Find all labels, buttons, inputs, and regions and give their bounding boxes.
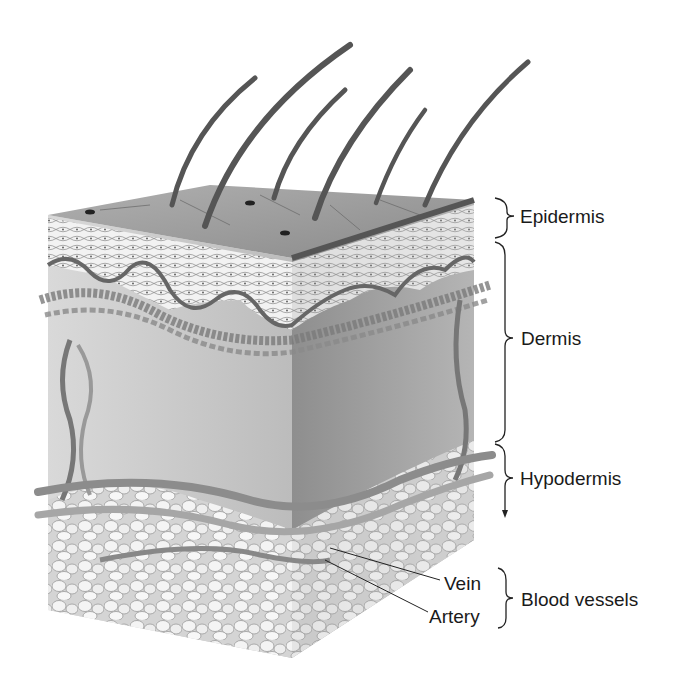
hypodermis-arrow-icon [502,510,508,518]
skin-diagram: Epidermis Dermis Hypodermis Vein Artery … [0,0,687,677]
label-artery: Artery [429,607,480,626]
label-vein: Vein [444,574,481,593]
blood-vessels-bracket [498,568,513,628]
layer-brackets [495,198,514,628]
hypodermis-bracket [495,444,513,510]
epidermis-bracket [495,198,514,238]
label-hypodermis: Hypodermis [520,469,621,488]
dermis-bracket [495,242,513,442]
label-blood-vessels: Blood vessels [521,590,638,609]
label-epidermis: Epidermis [520,207,604,226]
skin-block-illustration [0,0,687,677]
label-dermis: Dermis [521,329,581,348]
